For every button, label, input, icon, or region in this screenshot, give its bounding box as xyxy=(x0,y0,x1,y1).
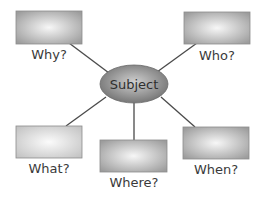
node-when: When? xyxy=(183,127,249,177)
five-w-diagram: Why?Who?What?Where?When? Subject xyxy=(0,0,261,199)
label-when: When? xyxy=(194,162,238,177)
connector-why xyxy=(69,43,109,73)
box-what xyxy=(16,126,82,158)
box-when xyxy=(183,127,249,159)
connector-who xyxy=(157,43,197,72)
connector-what xyxy=(66,97,106,126)
label-why: Why? xyxy=(31,47,67,62)
box-why xyxy=(16,11,82,44)
label-what: What? xyxy=(28,161,69,176)
node-why: Why? xyxy=(16,11,82,62)
label-where: Where? xyxy=(109,175,158,190)
box-where xyxy=(100,140,167,172)
node-who: Who? xyxy=(184,12,250,63)
label-who: Who? xyxy=(199,48,235,63)
connector-when xyxy=(161,97,195,127)
box-who xyxy=(184,12,250,44)
node-what: What? xyxy=(16,126,82,176)
subject-label: Subject xyxy=(110,77,159,92)
subject-node: Subject xyxy=(100,65,168,103)
node-where: Where? xyxy=(100,140,167,190)
